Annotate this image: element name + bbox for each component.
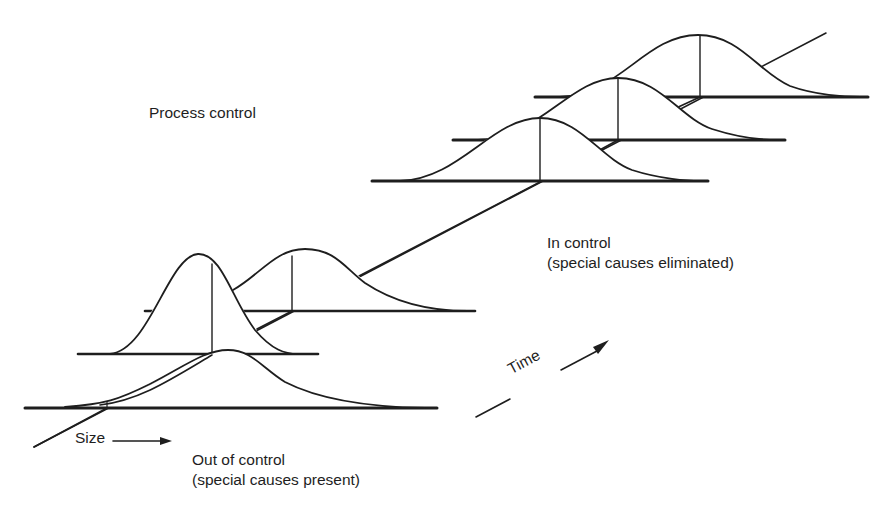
process-control-diagram <box>0 0 888 505</box>
time-axis-segment <box>359 182 540 276</box>
in-control-label: In control (special causes eliminated) <box>547 233 734 273</box>
out-of-control-heading: Out of control <box>192 450 360 470</box>
diagram-title: Process control <box>149 103 256 123</box>
size-arrow <box>113 437 172 445</box>
distribution-out-of-control-1 <box>25 350 437 408</box>
in-control-heading: In control <box>547 233 734 253</box>
time-arrow <box>476 340 609 417</box>
size-axis-label: Size <box>75 428 105 448</box>
in-control-subheading: (special causes eliminated) <box>547 253 734 273</box>
out-of-control-label: Out of control (special causes present) <box>192 450 360 490</box>
out-of-control-subheading: (special causes present) <box>192 470 360 490</box>
